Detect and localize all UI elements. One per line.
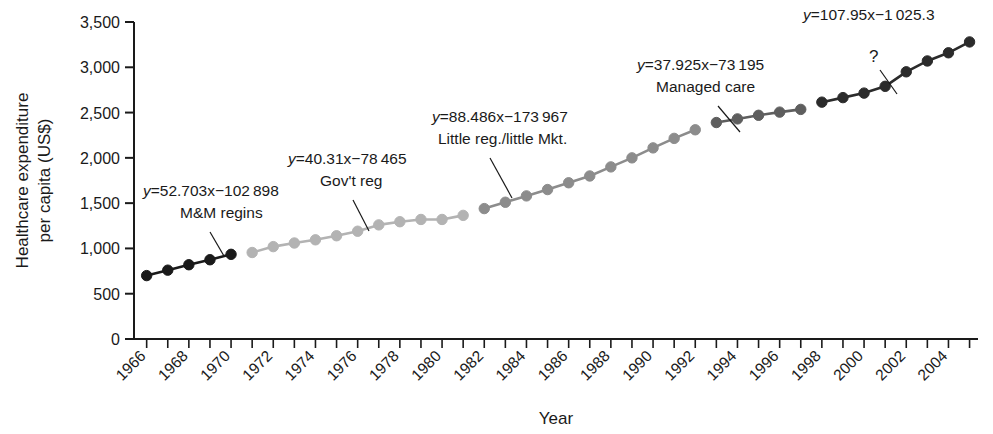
data-point — [395, 217, 405, 227]
data-point — [796, 104, 806, 114]
data-point — [838, 92, 848, 102]
data-point — [247, 247, 257, 257]
ann-gov-label: Gov't reg — [320, 172, 382, 189]
data-point — [542, 184, 552, 194]
y-tick-label: 1,000 — [80, 240, 120, 257]
y-tick-label: 1,500 — [80, 195, 120, 212]
data-point — [226, 249, 236, 259]
data-point — [964, 37, 974, 47]
x-tick-label: 1982 — [450, 347, 486, 383]
ann-mm-equation: y=52.703x−102 898 — [142, 182, 279, 199]
x-tick-label: 1980 — [408, 347, 445, 384]
data-point — [711, 117, 721, 127]
x-tick-label: 1994 — [703, 347, 740, 384]
data-point — [774, 107, 784, 117]
data-point — [205, 255, 215, 265]
data-point — [437, 214, 447, 224]
data-point — [500, 197, 510, 207]
x-tick-label: 1976 — [323, 347, 359, 383]
x-tick-label: 1970 — [197, 347, 234, 384]
ann-little-label: Little reg./little Mkt. — [438, 130, 567, 147]
x-tick-label: 1992 — [661, 347, 697, 383]
data-point — [141, 270, 151, 280]
data-point — [585, 171, 595, 181]
y-tick-label: 3,000 — [80, 59, 120, 76]
data-point — [374, 220, 384, 230]
data-point — [943, 48, 953, 58]
data-point — [859, 88, 869, 98]
x-tick-label: 1996 — [745, 347, 781, 383]
data-point — [817, 97, 827, 107]
x-axis-title: Year — [539, 409, 574, 428]
healthcare-expenditure-chart: 05001,0001,5002,0002,5003,0003,500196619… — [0, 0, 993, 434]
data-point — [458, 210, 468, 220]
data-point — [627, 153, 637, 163]
x-tick-label: 2004 — [914, 347, 951, 384]
data-point — [268, 241, 278, 251]
data-point — [163, 265, 173, 275]
x-tick-label: 1966 — [112, 347, 148, 383]
chart-svg: 05001,0001,5002,0002,5003,0003,500196619… — [0, 0, 993, 434]
ann-mm-label: M&M regins — [180, 204, 263, 221]
data-point — [753, 110, 763, 120]
y-tick-label: 2,500 — [80, 105, 120, 122]
x-tick-label: 1988 — [577, 347, 613, 383]
data-point — [352, 226, 362, 236]
ann-question-equation: y=107.95x−1 025.3 — [802, 6, 935, 23]
data-point — [669, 133, 679, 143]
x-tick-label: 2000 — [830, 347, 867, 384]
y-tick-label: 3,500 — [80, 14, 120, 31]
data-point — [331, 231, 341, 241]
y-tick-label: 500 — [93, 286, 120, 303]
data-point — [690, 125, 700, 135]
data-point — [479, 203, 489, 213]
data-point — [416, 214, 426, 224]
x-tick-label: 2002 — [872, 347, 908, 383]
x-tick-label: 1984 — [492, 347, 529, 384]
x-tick-label: 1972 — [239, 347, 275, 383]
x-tick-label: 1986 — [534, 347, 570, 383]
data-point — [563, 178, 573, 188]
ann-managed-label: Managed care — [656, 78, 755, 95]
data-point — [521, 191, 531, 201]
ann-little-equation: y=88.486x−173 967 — [431, 108, 568, 125]
data-point — [732, 114, 742, 124]
data-point — [648, 143, 658, 153]
ann-managed-equation: y=37.925x−73 195 — [636, 56, 764, 73]
data-point — [310, 235, 320, 245]
data-point — [606, 162, 616, 172]
ann-little-leader-line — [490, 158, 512, 198]
y-axis-title-line2: per capita (US$) — [35, 119, 54, 243]
y-tick-label: 0 — [111, 331, 120, 348]
x-tick-label: 1968 — [155, 347, 191, 383]
ann-question-label: ? — [869, 47, 878, 66]
data-point — [922, 56, 932, 66]
data-point — [289, 238, 299, 248]
x-tick-label: 1974 — [281, 347, 318, 384]
x-tick-label: 1978 — [366, 347, 402, 383]
x-tick-label: 1990 — [619, 347, 656, 384]
x-tick-label: 1998 — [788, 347, 824, 383]
data-point — [901, 67, 911, 77]
ann-gov-equation: y=40.31x−78 465 — [287, 150, 407, 167]
data-point — [184, 260, 194, 270]
ann-mm-leader-line — [210, 232, 224, 256]
y-axis-title-line1: Healthcare expenditure — [13, 93, 32, 269]
y-tick-label: 2,000 — [80, 150, 120, 167]
